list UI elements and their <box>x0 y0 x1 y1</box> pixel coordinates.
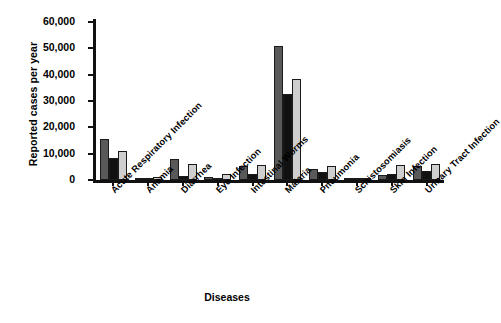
bar-group <box>100 22 127 180</box>
y-tick-label: 0 <box>17 173 75 185</box>
bar <box>248 174 257 180</box>
bar <box>204 177 213 180</box>
bar <box>283 94 292 180</box>
y-tick <box>88 47 93 49</box>
y-tick <box>88 153 93 155</box>
y-tick <box>88 126 93 128</box>
bar-group <box>309 22 336 180</box>
bar <box>292 79 301 180</box>
bar <box>109 158 118 180</box>
y-tick <box>88 21 93 23</box>
y-tick-label: 20,000 <box>17 120 75 132</box>
y-tick <box>88 100 93 102</box>
bar <box>344 178 353 180</box>
y-tick-label: 30,000 <box>17 94 75 106</box>
y-axis-line <box>93 19 96 183</box>
bar-group <box>170 22 197 180</box>
y-tick <box>88 179 93 181</box>
bar <box>135 178 144 180</box>
y-tick-label: 10,000 <box>17 147 75 159</box>
bar <box>378 175 387 180</box>
bar <box>100 139 109 180</box>
bar <box>422 171 431 180</box>
bar-group <box>204 22 231 180</box>
x-axis-title: Diseases <box>0 291 454 303</box>
y-tick <box>88 74 93 76</box>
y-tick-label: 60,000 <box>17 15 75 27</box>
y-tick-label: 50,000 <box>17 41 75 53</box>
y-tick-label: 40,000 <box>17 68 75 80</box>
